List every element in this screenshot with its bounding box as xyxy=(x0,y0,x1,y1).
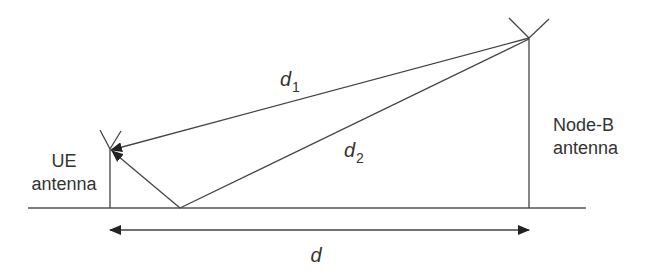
d1-label-sub: 1 xyxy=(292,79,300,95)
reflected-path-reflected-arrow xyxy=(112,151,180,208)
nodeb-label-line2: antenna xyxy=(553,138,619,158)
nodeb-label-line1: Node-B xyxy=(553,115,614,135)
reflected-path-incident xyxy=(180,39,529,208)
d2-label-main: d xyxy=(344,139,356,161)
ue-label-line1: UE xyxy=(51,151,76,171)
nodeb-antenna-prong-left xyxy=(509,18,529,38)
d1-label-main: d xyxy=(280,68,292,90)
ue-antenna xyxy=(100,130,121,208)
d2-label: d 2 xyxy=(344,139,364,166)
d2-label-sub: 2 xyxy=(356,150,364,166)
d-label: d xyxy=(310,244,322,266)
ue-antenna-prong-right xyxy=(110,131,121,149)
two-ray-diagram: UE antenna Node-B antenna d 1 d 2 d xyxy=(0,0,658,280)
ue-antenna-prong-left xyxy=(100,130,110,149)
d1-label: d 1 xyxy=(280,68,300,95)
ue-label-line2: antenna xyxy=(31,174,97,194)
direct-path-arrow xyxy=(111,38,529,150)
nodeb-antenna-prong-right xyxy=(529,19,549,38)
